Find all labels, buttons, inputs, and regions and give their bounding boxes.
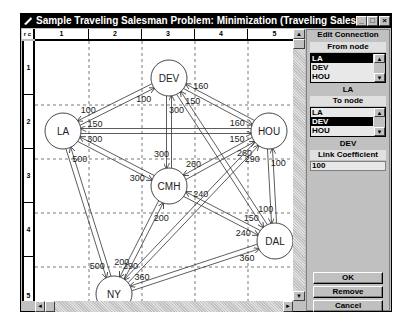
edge-coefficient-label: 200: [154, 213, 169, 223]
scroll-up-button[interactable]: ▲: [293, 29, 305, 39]
row-header: 1 2 3 4 5: [22, 41, 35, 301]
edge-coefficient-label: 290: [245, 154, 260, 164]
column-header-4: 4: [195, 29, 248, 39]
from-option-hou[interactable]: HOU: [311, 72, 373, 81]
from-scroll-up-button[interactable]: ▲: [374, 54, 385, 63]
row-header-3: 3: [24, 149, 33, 203]
edge-coefficient-label: 500: [90, 261, 105, 271]
edge-coefficient-label: 240: [236, 228, 251, 238]
scroll-down-button[interactable]: ▼: [293, 291, 305, 301]
network-canvas[interactable]: 1001001501503003005005003003001601601501…: [35, 41, 293, 301]
row-header-1: 1: [24, 41, 33, 95]
column-header-2: 2: [89, 29, 142, 39]
edit-connection-panel: Edit Connection From node LA DEV HOU ▲ ▼…: [306, 29, 390, 311]
edge-coefficient-label: 100: [136, 94, 151, 104]
node-label: DAL: [265, 236, 285, 247]
edge-coefficient-label: 100: [258, 204, 273, 214]
nodes: DEVLAHOUCMHDALNY: [45, 60, 293, 301]
to-scroll-down-button[interactable]: ▼: [374, 127, 385, 136]
horizontal-scroll-thumb[interactable]: [45, 301, 55, 312]
horizontal-scrollbar[interactable]: ◄ ►: [35, 301, 293, 312]
to-option-hou[interactable]: HOU: [311, 126, 373, 135]
node-hou[interactable]: HOU: [251, 113, 287, 149]
to-option-dev[interactable]: DEV: [311, 117, 373, 126]
cancel-button[interactable]: Cancel: [313, 300, 383, 312]
edge-coefficient-label: 300: [87, 134, 102, 144]
remove-button[interactable]: Remove: [313, 286, 383, 298]
from-node-value: LA: [310, 85, 386, 95]
node-label: DEV: [159, 73, 180, 84]
edge-coefficient-label: 260: [186, 159, 201, 169]
edge-coefficient-label: 160: [193, 81, 208, 91]
edge-coefficient-label: 150: [229, 134, 244, 144]
node-label: NY: [107, 289, 121, 300]
to-scroll-up-button[interactable]: ▲: [374, 108, 385, 117]
row-header-2: 2: [24, 95, 33, 149]
edge-coefficient-label: 150: [185, 96, 200, 106]
ok-button[interactable]: OK: [313, 272, 383, 284]
column-header: 1 2 3 4 5: [35, 29, 293, 41]
from-option-la[interactable]: LA: [311, 54, 373, 63]
app-icon: [24, 17, 32, 25]
node-label: HOU: [258, 126, 280, 137]
row-header-4: 4: [24, 203, 33, 257]
close-button[interactable]: ×: [379, 16, 390, 26]
node-dev[interactable]: DEV: [151, 60, 187, 96]
edge-coefficient-label: 150: [244, 213, 259, 223]
scroll-right-button[interactable]: ►: [283, 301, 293, 312]
link-coefficient-label: Link Coefficient: [310, 150, 386, 160]
node-label: CMH: [158, 181, 181, 192]
app-window: Sample Traveling Salesman Problem: Minim…: [20, 13, 392, 312]
minimize-button[interactable]: _: [356, 16, 367, 26]
from-listbox-scrollbar[interactable]: ▲ ▼: [374, 54, 385, 82]
grid-corner: r c: [22, 29, 35, 39]
edge-coefficient-label: 300: [130, 173, 145, 183]
network-diagram[interactable]: 1001001501503003005005003003001601601501…: [35, 41, 293, 301]
node-ny[interactable]: NY: [96, 276, 132, 301]
to-listbox-scrollbar[interactable]: ▲ ▼: [374, 108, 385, 136]
window-title: Sample Traveling Salesman Problem: Minim…: [36, 14, 364, 28]
link-coefficient-input[interactable]: 100: [310, 161, 386, 171]
vertical-scroll-thumb[interactable]: [293, 39, 305, 49]
to-node-value: DEV: [310, 139, 386, 149]
edge-coefficient-label: 500: [72, 154, 87, 164]
node-label: LA: [57, 126, 70, 137]
node-la[interactable]: LA: [45, 113, 81, 149]
edge-coefficient-label: 240: [193, 189, 208, 199]
node-dal[interactable]: DAL: [257, 223, 293, 259]
panel-title: Edit Connection: [307, 30, 389, 39]
column-header-3: 3: [142, 29, 195, 39]
edge-ny-la[interactable]: [71, 147, 111, 276]
edge-coefficient-label: 200: [114, 257, 129, 267]
column-header-1: 1: [35, 29, 89, 39]
from-option-dev[interactable]: DEV: [311, 63, 373, 72]
edge-coefficient-label: 300: [154, 149, 169, 159]
edge-coefficient-label: 100: [81, 105, 96, 115]
to-node-label: To node: [310, 96, 386, 106]
edge-coefficient-label: 360: [239, 253, 254, 263]
from-scroll-down-button[interactable]: ▼: [374, 73, 385, 82]
from-node-label: From node: [310, 42, 386, 52]
vertical-scrollbar[interactable]: ▲ ▼: [293, 29, 305, 301]
edge-coefficient-label: 160: [230, 118, 245, 128]
edge-coefficient-label: 360: [135, 272, 150, 282]
edge-coefficient-label: 100: [271, 158, 286, 168]
node-cmh[interactable]: CMH: [151, 168, 187, 204]
title-bar[interactable]: Sample Traveling Salesman Problem: Minim…: [21, 14, 391, 28]
row-header-5: 5: [24, 257, 33, 301]
edge-coefficient-label: 150: [87, 119, 102, 129]
from-node-listbox[interactable]: LA DEV HOU ▲ ▼: [310, 53, 386, 83]
to-node-listbox[interactable]: LA DEV HOU ▲ ▼: [310, 107, 386, 137]
maximize-button[interactable]: □: [367, 16, 378, 26]
scroll-left-button[interactable]: ◄: [35, 301, 45, 312]
edge-coefficient-label: 300: [169, 105, 184, 115]
to-option-la[interactable]: LA: [311, 108, 373, 117]
